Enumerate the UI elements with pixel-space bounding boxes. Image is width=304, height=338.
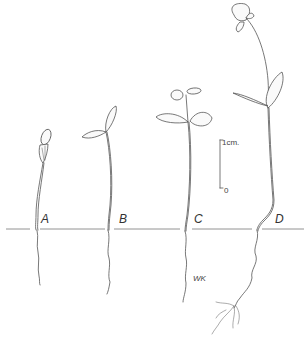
stage-label-c: C — [194, 212, 203, 226]
seedling-c: WK — [156, 87, 212, 302]
artist-signature: WK — [193, 274, 207, 283]
seedling-illustration: WK 1cm. 0 A B C D — [0, 0, 304, 338]
stage-label-a: A — [40, 212, 49, 226]
stage-label-b: B — [119, 212, 127, 226]
seedling-b — [82, 106, 116, 294]
scale-top-label: 1cm. — [222, 138, 239, 147]
stage-label-d: D — [275, 212, 284, 226]
seedling-d — [212, 3, 283, 334]
scale-bar: 1cm. 0 — [220, 138, 239, 195]
seedling-a — [36, 128, 53, 285]
scale-bottom-label: 0 — [224, 186, 229, 195]
